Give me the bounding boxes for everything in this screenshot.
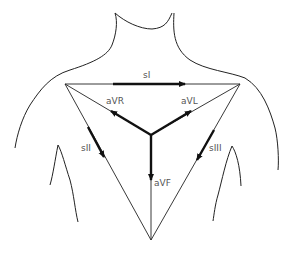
label-sIII: sIII — [209, 143, 222, 153]
left-arm-line — [50, 145, 58, 185]
right-armpit-tip — [232, 146, 241, 186]
aVR-arrow — [111, 111, 151, 135]
lead-II-line — [65, 84, 151, 240]
neck-line — [115, 13, 172, 29]
label-aVR: aVR — [106, 96, 124, 106]
ecg-lead-diagram: sI aVR aVL sII sIII aVF — [0, 0, 292, 254]
label-aVF: aVF — [154, 178, 171, 188]
label-aVL: aVL — [181, 96, 198, 106]
left-armpit-line — [58, 145, 78, 222]
right-armpit-line — [213, 146, 232, 221]
label-sI: sI — [143, 70, 150, 80]
torso-outline — [15, 13, 278, 222]
neck-shoulder-left — [15, 13, 116, 148]
aVL-arrow — [151, 111, 191, 135]
label-sII: sII — [81, 143, 91, 153]
